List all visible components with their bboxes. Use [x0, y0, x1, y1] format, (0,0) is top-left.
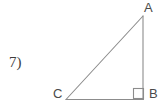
vertex-label-a: A: [144, 1, 153, 14]
vertex-label-b: B: [149, 87, 158, 100]
triangle-side-hypotenuse-CA: [66, 16, 143, 100]
problem-number-label: 7): [9, 55, 22, 70]
right-triangle-diagram: [0, 0, 166, 107]
right-angle-marker-icon: [134, 89, 144, 99]
vertex-label-c: C: [53, 87, 62, 100]
figure-container: 7) A B C: [0, 0, 166, 107]
